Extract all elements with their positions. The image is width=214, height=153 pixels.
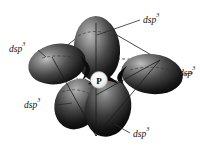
label-top-sup: 3 xyxy=(155,10,159,17)
label-bottom-base: dsp xyxy=(133,129,146,139)
central-atom-symbol: P xyxy=(96,76,102,86)
label-upper-left-base: dsp xyxy=(9,44,22,54)
orbital-diagram: P dsp3 dsp3 dsp3 dsp3 dsp3 xyxy=(0,0,214,153)
label-right-sup: 3 xyxy=(191,63,195,70)
central-atom: P xyxy=(91,72,108,89)
label-bottom-sup: 3 xyxy=(145,124,149,131)
label-top-base: dsp xyxy=(143,15,156,25)
label-upper-left-sup: 3 xyxy=(21,39,25,46)
label-lower-left-base: dsp xyxy=(24,100,37,110)
label-right-base: dsp xyxy=(179,68,192,78)
label-lower-left-sup: 3 xyxy=(36,95,40,102)
